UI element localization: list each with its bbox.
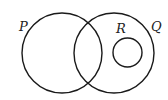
label-r: R: [115, 21, 126, 36]
label-q: Q: [151, 19, 162, 34]
circle-p: [22, 13, 102, 93]
set-p: P: [18, 13, 102, 93]
set-r: R: [113, 21, 142, 67]
circle-r: [113, 38, 142, 67]
venn-diagram: P Q R: [0, 0, 168, 100]
label-p: P: [18, 19, 28, 34]
